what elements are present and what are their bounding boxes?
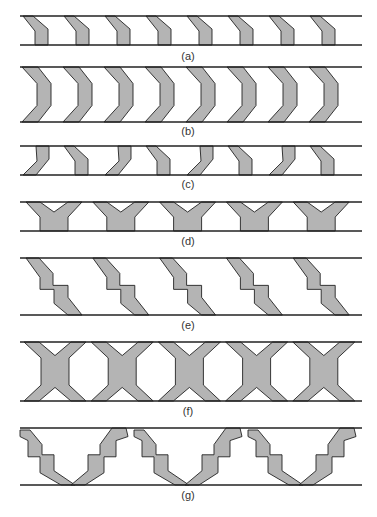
web-y bbox=[26, 202, 82, 231]
web-chevron bbox=[268, 67, 297, 122]
web-chevron bbox=[104, 67, 133, 122]
panel-a bbox=[20, 16, 362, 45]
web-stepped bbox=[293, 258, 349, 315]
web-bracket bbox=[228, 16, 253, 45]
web-bracket bbox=[310, 146, 334, 175]
web-chevron bbox=[145, 67, 174, 122]
panel-label-g: (g) bbox=[168, 489, 208, 501]
panel-label-a: (a) bbox=[168, 50, 208, 62]
panel-label-d: (d) bbox=[168, 235, 208, 247]
web-stepped bbox=[160, 258, 216, 315]
panel-c bbox=[20, 146, 362, 175]
web-x bbox=[91, 342, 153, 401]
web-stepped bbox=[26, 258, 82, 315]
panel-f bbox=[20, 342, 362, 401]
web-y bbox=[93, 202, 149, 231]
web-stepped-v-right bbox=[185, 428, 242, 485]
panel-label-f: (f) bbox=[168, 405, 208, 417]
web-stepped-v-left bbox=[134, 430, 189, 485]
panel-b bbox=[20, 67, 362, 122]
panel-g bbox=[20, 428, 362, 485]
web-bracket bbox=[187, 16, 212, 45]
panel-d bbox=[20, 202, 362, 231]
web-y bbox=[226, 202, 282, 231]
web-chevron bbox=[63, 67, 92, 122]
web-stepped bbox=[93, 258, 149, 315]
web-chevron bbox=[227, 67, 256, 122]
web-stepped bbox=[226, 258, 282, 315]
web-chevron bbox=[309, 67, 338, 122]
web-bracket bbox=[146, 146, 170, 175]
web-chevron bbox=[22, 67, 51, 122]
web-bracket-reversed bbox=[105, 146, 131, 175]
web-x bbox=[24, 342, 86, 401]
web-stepped-v-left bbox=[248, 430, 303, 485]
web-y bbox=[293, 202, 349, 231]
web-bracket bbox=[310, 16, 335, 45]
web-x bbox=[293, 342, 355, 401]
strip-pattern-figure bbox=[0, 0, 377, 517]
web-bracket-reversed bbox=[187, 146, 213, 175]
web-bracket-reversed bbox=[269, 146, 295, 175]
panel-label-e: (e) bbox=[168, 319, 208, 331]
web-bracket bbox=[64, 146, 88, 175]
web-x bbox=[226, 342, 288, 401]
web-x bbox=[158, 342, 220, 401]
web-chevron bbox=[186, 67, 215, 122]
web-bracket-reversed bbox=[23, 146, 49, 175]
panel-e bbox=[20, 258, 362, 315]
web-stepped-v-left bbox=[20, 430, 75, 485]
panel-label-b: (b) bbox=[168, 125, 208, 137]
web-bracket bbox=[269, 16, 294, 45]
web-bracket bbox=[146, 16, 171, 45]
web-bracket bbox=[64, 16, 89, 45]
web-stepped-v-right bbox=[299, 428, 356, 485]
panel-label-c: (c) bbox=[168, 178, 208, 190]
web-bracket bbox=[23, 16, 48, 45]
web-y bbox=[160, 202, 216, 231]
web-bracket bbox=[105, 16, 130, 45]
web-bracket bbox=[228, 146, 252, 175]
web-stepped-v-right bbox=[71, 428, 128, 485]
